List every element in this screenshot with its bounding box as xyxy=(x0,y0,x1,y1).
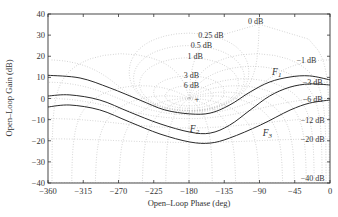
y-tick-label: −10 xyxy=(32,115,45,125)
grid-contour xyxy=(52,60,189,112)
y-tick-label: 0 xyxy=(41,94,45,104)
x-tick-label: −315 xyxy=(74,186,92,196)
y-tick-label: 20 xyxy=(37,51,46,61)
grid-contour xyxy=(49,82,189,114)
contour-label: 0 dB xyxy=(248,17,263,26)
y-tick-label: 10 xyxy=(37,72,46,82)
curve-f3 xyxy=(48,100,330,143)
x-tick-labels: −360−315−270−225−180−135−90−450 xyxy=(39,186,332,196)
x-tick-label: −225 xyxy=(145,186,163,196)
x-tick-label: −135 xyxy=(215,186,233,196)
contour-label: −12 dB xyxy=(301,116,325,125)
x-tick-label: 0 xyxy=(328,186,332,196)
contour-label: −20 dB xyxy=(301,135,325,144)
y-tick-labels: 403020100−10−20−30−40 xyxy=(32,9,45,188)
y-tick-label: −20 xyxy=(32,136,45,146)
y-tick-label: −30 xyxy=(32,157,45,167)
nichols-chart: −360−315−270−225−180−135−90−450 40302010… xyxy=(0,0,338,217)
curve-label-f3: F3 xyxy=(262,128,273,140)
y-tick-label: 40 xyxy=(37,9,46,19)
contour-label: −40 dB xyxy=(301,174,325,183)
contour-label: 0.5 dB xyxy=(191,41,212,50)
curve-label-f1: F1 xyxy=(271,67,281,79)
curve-label-f2: F2 xyxy=(189,124,200,136)
grid-contour xyxy=(189,12,259,112)
contour-label: 3 dB xyxy=(184,71,199,80)
x-tick-label: −45 xyxy=(288,186,301,196)
x-tick-label: −270 xyxy=(110,186,128,196)
contour-label: −3 dB xyxy=(303,78,323,87)
x-tick-label: −180 xyxy=(180,186,198,196)
critical-point-marker: + xyxy=(195,94,200,104)
y-axis-title: Open–Loop Gain (dB) xyxy=(4,59,14,136)
contour-labels: 0 dB0.25 dB0.5 dB1 dB3 dB6 dB−1 dB−3 dB−… xyxy=(184,17,325,182)
contour-label: −1 dB xyxy=(297,56,317,65)
contour-label: 6 dB xyxy=(184,81,199,90)
x-tick-label: −90 xyxy=(253,186,266,196)
x-axis-title: Open–Loop Phase (deg) xyxy=(148,198,231,208)
y-tick-label: −40 xyxy=(32,178,45,188)
contour-label: 1 dB xyxy=(188,52,203,61)
y-tick-label: 30 xyxy=(37,30,46,40)
grid-contour xyxy=(189,79,314,217)
contour-label: 0.25 dB xyxy=(198,31,223,40)
